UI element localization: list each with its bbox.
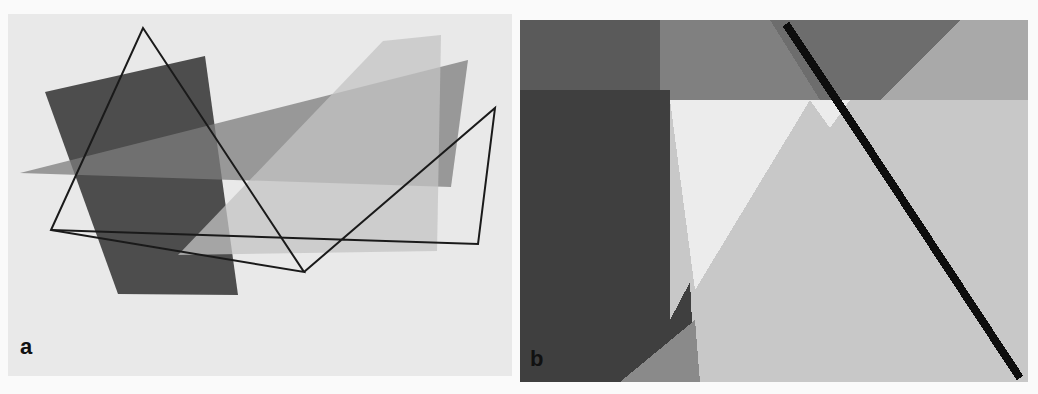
polygons-illustration [8,14,512,376]
pixelated-zoom-view [520,20,1028,382]
panel-label-b: b [530,346,543,372]
panel-b: b [520,20,1028,382]
panel-a: a [8,14,512,376]
panel-label-a: a [20,334,32,360]
